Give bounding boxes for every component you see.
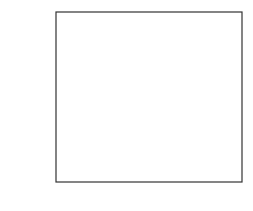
plot-frame [56,12,242,182]
line-chart [0,0,253,211]
